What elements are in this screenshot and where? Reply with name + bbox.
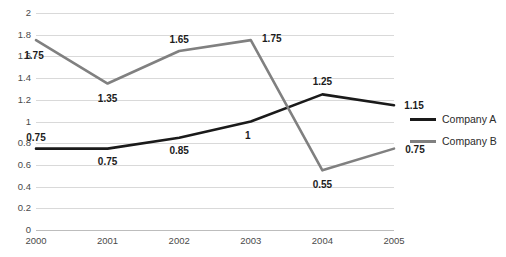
x-axis-tick-label: 2000 [25,236,46,246]
line-chart: 00.20.40.60.811.21.41.61.82 0.750.750.85… [0,0,506,257]
y-axis-tick-label: 0.8 [1,138,31,148]
series-line-company-a [36,94,394,148]
y-axis-tick-label: 1.8 [1,30,31,40]
x-axis: 200020012002200320042005 [36,234,394,250]
series-line-company-b [36,40,394,170]
y-axis-tick-label: 0.4 [1,182,31,192]
y-axis: 00.20.40.60.811.21.41.61.82 [0,13,31,230]
legend-swatch-icon [410,118,436,121]
y-axis-tick-label: 0.2 [1,203,31,213]
legend-item-label: Company B [442,136,497,147]
x-axis-tick-label: 2001 [97,236,118,246]
y-axis-tick-label: 1.4 [1,73,31,83]
y-axis-tick-label: 1.2 [1,95,31,105]
gridline [36,230,394,231]
y-axis-tick-label: 1.6 [1,51,31,61]
y-axis-tick-label: 2 [1,8,31,18]
chart-legend: Company ACompany B [410,108,506,152]
legend-item-label: Company A [442,114,496,125]
legend-item[interactable]: Company B [410,130,506,152]
legend-item[interactable]: Company A [410,108,506,130]
x-axis-tick-label: 2002 [169,236,190,246]
legend-swatch-icon [410,140,436,143]
y-axis-tick-label: 0.6 [1,160,31,170]
series-layer [36,13,394,230]
x-axis-tick-label: 2003 [240,236,261,246]
x-axis-tick-label: 2005 [383,236,404,246]
y-axis-tick-label: 1 [1,117,31,127]
x-axis-tick-label: 2004 [312,236,333,246]
y-axis-tick-label: 0 [1,225,31,235]
